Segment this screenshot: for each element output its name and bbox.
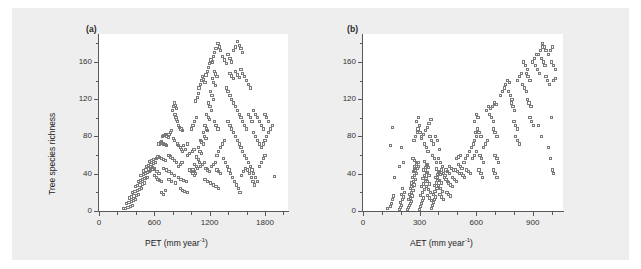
data-point [448,172,451,175]
data-point [414,135,417,138]
y-axis-tick-label: 0 [67,206,92,215]
data-point [208,170,211,173]
data-point [208,105,211,108]
data-point [400,146,403,149]
x-axis-tick [154,212,155,216]
x-axis-tick [420,212,421,216]
data-point [234,135,237,138]
data-point [164,159,167,162]
x-axis-tick [476,212,477,216]
data-point [528,116,531,119]
data-point [501,90,504,93]
data-point [495,176,498,179]
data-point [478,154,481,157]
data-point [423,142,426,145]
data-point [525,72,528,75]
data-point [410,200,413,203]
data-point [476,116,479,119]
data-point [547,146,550,149]
data-point [238,142,241,145]
data-point [477,168,480,171]
data-point [217,150,220,153]
data-point [543,45,546,48]
data-point [196,96,199,99]
data-point [203,161,206,164]
data-point [239,68,242,71]
data-point [221,142,224,145]
y-axis-tick [94,99,98,100]
y-axis-minor-tick [360,43,363,44]
data-point [131,204,134,207]
data-point [420,185,423,188]
x-axis-minor-tick [514,212,515,215]
data-point [423,188,426,191]
data-point [215,154,218,157]
data-point [250,176,253,179]
data-point [510,101,513,104]
data-point [428,135,431,138]
data-point [197,146,200,149]
data-point [176,120,179,123]
data-point [252,131,255,134]
data-point [472,142,475,145]
data-point [206,70,209,73]
y-axis-minor-tick [96,43,99,44]
data-point [232,49,235,52]
data-point [464,157,467,160]
data-point [247,161,250,164]
data-point [229,172,232,175]
data-point [213,120,216,123]
y-axis-minor-tick [360,118,363,119]
data-point [203,81,206,84]
data-point [479,172,482,175]
data-point [441,165,444,168]
data-point [476,127,479,130]
data-point [243,75,246,78]
data-point [238,113,241,116]
data-point [232,77,235,80]
data-point [194,99,197,102]
data-point [211,60,214,63]
data-point [249,116,252,119]
data-point [184,148,187,151]
data-point [174,181,177,184]
data-point [528,79,531,82]
x-axis-minor-tick [228,212,229,215]
data-point [497,161,500,164]
data-point [232,101,235,104]
data-point [473,154,476,157]
data-point [516,79,519,82]
data-point [411,189,414,192]
data-point [153,167,156,170]
data-point [434,135,437,138]
data-point [398,165,401,168]
data-point [226,120,229,123]
data-point [234,105,237,108]
data-point [462,161,465,164]
data-point [435,187,438,190]
data-point [253,183,256,186]
data-point [424,129,427,132]
data-point [470,146,473,149]
data-point [269,127,272,130]
x-axis-minor-tick [438,212,439,215]
data-point [426,150,429,153]
data-point [509,94,512,97]
y-axis-tick-label: 80 [67,131,92,140]
data-point [428,182,431,185]
y-axis-minor-tick [360,192,363,193]
data-point [430,207,433,210]
data-point [263,154,266,157]
data-point [260,124,263,127]
data-point [195,116,198,119]
data-point [390,202,393,205]
panel-b: (b) 040801201600300600900 AET (mm year-1… [320,0,640,269]
data-point [401,187,404,190]
data-point [431,154,434,157]
data-point [225,86,228,89]
data-point [455,180,458,183]
x-axis-tick-label: 1200 [190,218,230,227]
data-point [540,57,543,60]
y-axis-minor-tick [96,81,99,82]
data-point [525,90,528,93]
